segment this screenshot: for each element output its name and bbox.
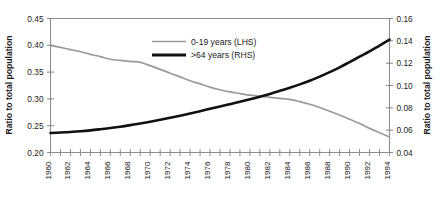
right-tick-label: 0.10 [397, 81, 414, 91]
x-tick-label: 1972 [163, 161, 172, 180]
left-tick-label: 0.45 [27, 14, 44, 24]
x-tick-label: 1966 [103, 161, 112, 180]
x-tick-label: 1990 [343, 161, 352, 180]
x-tick-label: 1978 [223, 161, 232, 180]
x-tick-label: 1962 [63, 161, 72, 180]
right-tick-label: 0.12 [397, 58, 414, 68]
x-tick-label: 1988 [323, 161, 332, 180]
x-tick-label: 1994 [383, 161, 392, 180]
right-axis-title: Ratio to total population [422, 36, 432, 135]
left-tick-label: 0.40 [27, 40, 44, 50]
x-tick-label: 1984 [283, 161, 292, 180]
x-tick-label: 1982 [263, 161, 272, 180]
x-tick-label: 1960 [44, 161, 53, 180]
right-tick-label: 0.08 [397, 103, 414, 113]
left-axis-title: Ratio to total population [4, 36, 14, 135]
x-tick-label: 1986 [303, 161, 312, 180]
right-tick-label: 0.06 [397, 125, 414, 135]
x-tick-label: 1976 [203, 161, 212, 180]
x-tick-label: 1964 [83, 161, 92, 180]
right-tick-label: 0.14 [397, 36, 414, 46]
x-tick-label: 1970 [143, 161, 152, 180]
right-tick-label: 0.16 [397, 14, 414, 24]
x-tick-label: 1974 [183, 161, 192, 180]
right-tick-label: 0.04 [397, 148, 414, 158]
left-tick-label: 0.20 [27, 148, 44, 158]
left-tick-label: 0.30 [27, 94, 44, 104]
legend-label-0-19-years: 0-19 years (LHS) [191, 37, 257, 47]
chart-figure: 0.200.250.300.350.400.45 0.040.060.080.1… [0, 0, 441, 202]
dual-axis-line-chart: 0.200.250.300.350.400.45 0.040.060.080.1… [0, 0, 441, 202]
left-tick-label: 0.25 [27, 121, 44, 131]
x-tick-label: 1980 [243, 161, 252, 180]
x-tick-label: 1992 [363, 161, 372, 180]
x-tick-label: 1968 [123, 161, 132, 180]
left-tick-label: 0.35 [27, 67, 44, 77]
legend-label-over-64-years: >64 years (RHS) [191, 50, 255, 60]
